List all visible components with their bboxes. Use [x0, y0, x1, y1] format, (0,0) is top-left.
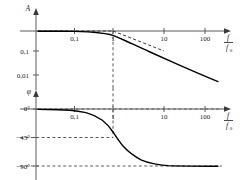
- phase-x-axis-label-numerator: f: [227, 111, 230, 120]
- phase-yticklabel-0: 0°: [24, 105, 31, 113]
- amplitude-plot: A 0,1 1 10 100 0,1 0,01 f f 0: [0, 0, 241, 90]
- amplitude-high-freq-asymptote: [113, 31, 164, 51]
- amplitude-x-axis-label-denominator-subscript: 0: [230, 48, 233, 53]
- phase-y-axis-arrow: [33, 90, 39, 97]
- amplitude-response-curve: [38, 31, 218, 81]
- phase-xticklabel-100: 100: [200, 113, 211, 121]
- amplitude-xticklabel-0.1: 0,1: [70, 35, 79, 43]
- phase-plot: φ 0,1 1 10 100 0° −45° −90° f f 0: [0, 88, 241, 180]
- amplitude-xticklabel-100: 100: [200, 35, 211, 43]
- bode-plot-figure: A 0,1 1 10 100 0,1 0,01 f f 0: [0, 0, 241, 180]
- amplitude-xticklabel-10: 10: [161, 35, 169, 43]
- phase-x-axis-label-denominator-subscript: 0: [230, 126, 233, 131]
- amplitude-yticklabel-0.1: 0,1: [20, 48, 29, 56]
- phase-x-axis-label: f f 0: [224, 111, 233, 131]
- phase-yticklabel-minus90: −90°: [16, 163, 30, 171]
- amplitude-xticklabel-1: 1: [111, 35, 115, 43]
- amplitude-y-axis-arrow: [33, 8, 39, 15]
- amplitude-x-axis-label-numerator: f: [227, 33, 230, 42]
- phase-xticklabel-1: 1: [111, 113, 115, 121]
- amplitude-y-axis-label: A: [24, 4, 30, 13]
- phase-yticklabel-minus45: −45°: [16, 134, 30, 142]
- phase-y-axis-label: φ: [27, 88, 31, 96]
- phase-xticklabel-0.1: 0,1: [70, 113, 79, 121]
- amplitude-x-axis-label: f f 0: [224, 33, 233, 53]
- phase-xticklabel-10: 10: [161, 113, 169, 121]
- phase-x-axis-label-denominator: f: [226, 121, 229, 130]
- amplitude-x-axis-label-denominator: f: [226, 43, 229, 52]
- amplitude-yticklabel-0.01: 0,01: [17, 72, 30, 80]
